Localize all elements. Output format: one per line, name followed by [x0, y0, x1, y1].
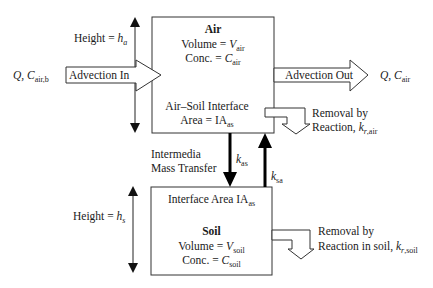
soil-interface-label: Interface Area IA [168, 193, 248, 205]
intermedia-line1: Intermedia [151, 148, 201, 161]
air-interface-area: Area = IAas [152, 114, 262, 131]
air-title: Air [152, 23, 274, 36]
intermedia-line2: Mass Transfer [151, 162, 217, 175]
removal-air-line1: Removal by [312, 107, 368, 120]
air-conc-sub: air [232, 58, 240, 67]
soil-height-label: Height = hs [73, 210, 125, 227]
air-height-sub: a [123, 38, 127, 47]
air-interface-sub: as [227, 120, 234, 129]
removal-air-text: Reaction, [312, 121, 359, 133]
advection-out-label: Advection Out [285, 69, 353, 82]
soil-volume-label: Volume = [178, 240, 226, 252]
removal-soil-arrow [272, 230, 314, 259]
air-height-label: Height = ha [74, 32, 127, 49]
soil-height-sub: s [122, 216, 125, 225]
removal-soil-line1: Removal by [318, 225, 374, 238]
air-conc-label: Conc. = [185, 52, 224, 64]
advection-out-dest-var: Q, C [380, 69, 402, 81]
advection-out-dest: Q, Cair [380, 69, 410, 86]
soil-interface-area: Interface Area IAas [151, 193, 272, 210]
soil-height-text: Height = [73, 210, 117, 222]
removal-soil-sub: ,soil [404, 246, 418, 255]
k-as-label: kas [236, 153, 248, 170]
advection-in-label: Advection In [69, 69, 129, 82]
transfer-soil-to-air-arrow [258, 133, 272, 187]
k-as-sub: as [241, 159, 248, 168]
air-interface-label: Area = IA [180, 114, 227, 126]
advection-in-source-var: Q, C [13, 69, 35, 81]
soil-conc-label: Conc. = [182, 254, 221, 266]
soil-height-arrow [128, 186, 138, 273]
air-conc: Conc. = Cair [152, 52, 274, 69]
advection-out-dest-sub: air [402, 75, 410, 84]
removal-soil-line2: Reaction in soil, kr,soil [318, 240, 418, 257]
removal-air-sub: ,air [367, 127, 377, 136]
air-height-text: Height = [74, 32, 118, 44]
k-sa-label: ksa [271, 170, 283, 187]
advection-in-source-sub: air,b [35, 75, 49, 84]
advection-in-source: Q, Cair,b [13, 69, 49, 86]
transfer-air-to-soil-arrow [223, 133, 237, 187]
removal-soil-text: Reaction in soil, [318, 240, 396, 252]
removal-air-line2: Reaction, kr,air [312, 121, 377, 138]
soil-conc-sub: soil [229, 260, 241, 269]
k-sa-sub: sa [276, 176, 283, 185]
soil-conc: Conc. = Csoil [151, 254, 272, 271]
soil-title: Soil [151, 225, 272, 238]
soil-interface-sub: as [248, 199, 255, 208]
air-volume-label: Volume = [181, 38, 229, 50]
air-interface-title: Air–Soil Interface [152, 100, 262, 113]
